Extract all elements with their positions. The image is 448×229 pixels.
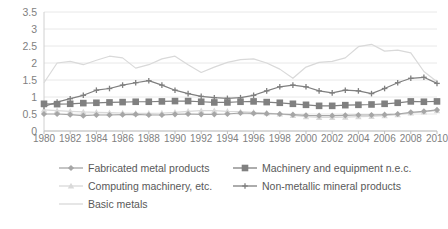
legend-key-none-icon: [58, 198, 84, 210]
data-point-marker: [290, 101, 297, 108]
data-point-marker: [237, 98, 244, 105]
x-axis-tick-label: 2000: [295, 133, 317, 144]
data-point-marker: [80, 100, 87, 107]
legend-label: Fabricated metal products: [88, 162, 209, 174]
data-point-marker: [93, 99, 100, 106]
data-point-marker: [68, 165, 74, 171]
data-point-marker: [224, 99, 231, 106]
legend-key-square-icon: [232, 162, 258, 174]
series-basic-metals: [44, 44, 437, 82]
legend-item[interactable]: Basic metals: [58, 198, 148, 210]
data-point-marker: [434, 98, 441, 105]
data-point-marker: [133, 111, 139, 117]
data-point-marker: [263, 99, 270, 106]
x-axis-tick-label: 1986: [111, 133, 133, 144]
data-point-marker: [237, 110, 243, 116]
data-point-marker: [329, 103, 336, 110]
legend-label: Computing machinery, etc.: [88, 180, 212, 192]
x-axis-tick-label: 1988: [138, 133, 160, 144]
data-point-marker: [408, 98, 415, 105]
legend-key-triangle-icon: [58, 180, 84, 192]
x-axis-tick-label: 1980: [33, 133, 55, 144]
data-point-marker: [381, 101, 388, 108]
data-point-marker: [264, 111, 270, 117]
data-point-marker: [211, 99, 218, 106]
x-axis-tick-label: 1992: [190, 133, 212, 144]
data-point-marker: [41, 101, 48, 108]
plot-area: 00.511.522.533.5 19801982198419861988199…: [0, 0, 445, 155]
data-point-marker: [250, 98, 257, 105]
x-axis-tick-label: 2006: [373, 133, 395, 144]
legend-item[interactable]: Fabricated metal products: [58, 162, 209, 174]
chart-legend: Fabricated metal productsMachinery and e…: [0, 158, 445, 229]
x-axis-tick-label: 2002: [321, 133, 343, 144]
series-machinery-and-equipment-n-e-c: [41, 98, 441, 109]
data-point-marker: [198, 98, 205, 105]
legend-item[interactable]: Non-metallic mineral products: [232, 180, 401, 192]
data-point-marker: [146, 98, 153, 105]
legend-key-diamond-icon: [58, 162, 84, 174]
x-axis-tick-label: 1996: [242, 133, 264, 144]
legend-label: Non-metallic mineral products: [262, 180, 401, 192]
data-point-marker: [421, 98, 428, 105]
data-point-marker: [172, 98, 179, 105]
data-point-marker: [251, 110, 257, 116]
legend-item[interactable]: Machinery and equipment n.e.c.: [232, 162, 411, 174]
data-point-marker: [185, 98, 192, 105]
legend-label: Basic metals: [88, 198, 148, 210]
data-point-marker: [303, 102, 310, 109]
data-point-marker: [342, 102, 349, 109]
data-point-marker: [119, 99, 126, 106]
x-axis-tick-label: 2004: [347, 133, 369, 144]
data-point-marker: [394, 99, 401, 106]
x-axis-tick-label: 1990: [164, 133, 186, 144]
legend-key-cross-icon: [232, 180, 258, 192]
data-point-marker: [277, 99, 284, 106]
x-axis-tick-label: 1984: [85, 133, 107, 144]
data-point-marker: [106, 99, 113, 106]
data-point-marker: [316, 103, 323, 110]
data-point-marker: [368, 101, 375, 108]
x-axis-tick-label: 1994: [216, 133, 238, 144]
data-point-marker: [242, 165, 249, 172]
x-axis-tick-label: 2010: [426, 133, 448, 144]
x-axis-tick-label: 1982: [59, 133, 81, 144]
x-axis-tick-labels: 1980198219841986198819901992199419961998…: [0, 131, 445, 151]
data-point-marker: [132, 98, 139, 105]
legend-item[interactable]: Computing machinery, etc.: [58, 180, 212, 192]
x-axis-tick-label: 1998: [269, 133, 291, 144]
series-line: [44, 44, 437, 82]
data-point-marker: [355, 102, 362, 109]
data-point-marker: [54, 101, 61, 108]
x-axis-tick-label: 2008: [400, 133, 422, 144]
data-point-marker: [159, 98, 166, 105]
data-point-marker: [67, 101, 74, 108]
legend-label: Machinery and equipment n.e.c.: [262, 162, 411, 174]
